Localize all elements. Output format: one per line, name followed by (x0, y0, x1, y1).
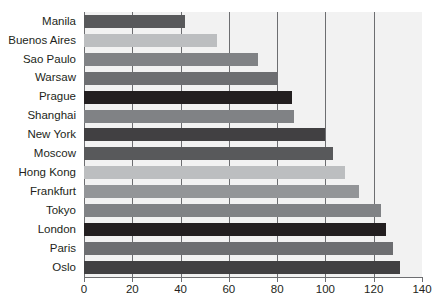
x-axis-tick (325, 277, 326, 282)
y-axis-label: Frankfurt (0, 182, 80, 201)
x-axis-tick (132, 277, 133, 282)
bar (84, 15, 185, 28)
bar-row (84, 50, 422, 69)
bar (84, 185, 359, 198)
x-axis-tick (422, 277, 423, 282)
bar-row (84, 220, 422, 239)
x-axis-tick (229, 277, 230, 282)
x-axis-tick (277, 277, 278, 282)
y-axis-label: Oslo (0, 258, 80, 277)
y-axis-label: Shanghai (0, 107, 80, 126)
y-axis-label: Paris (0, 239, 80, 258)
bar (84, 166, 345, 179)
y-axis-label: Warsaw (0, 69, 80, 88)
bar (84, 53, 258, 66)
bar-chart: ManilaBuenos AiresSao PauloWarsawPragueS… (0, 0, 436, 306)
bar-row (84, 144, 422, 163)
bar (84, 34, 217, 47)
y-axis-label: Hong Kong (0, 163, 80, 182)
x-axis-tick-label: 100 (316, 284, 335, 296)
x-axis-tick-label: 60 (222, 284, 235, 296)
bar (84, 128, 325, 141)
y-axis-label: Prague (0, 88, 80, 107)
bar-row (84, 126, 422, 145)
y-axis-category-labels: ManilaBuenos AiresSao PauloWarsawPragueS… (0, 12, 80, 277)
bar-row (84, 258, 422, 277)
y-axis-label: Moscow (0, 144, 80, 163)
bar-row (84, 12, 422, 31)
bar-row (84, 239, 422, 258)
y-axis-label: London (0, 220, 80, 239)
bar (84, 223, 386, 236)
x-axis-tick (374, 277, 375, 282)
x-axis-line (84, 277, 423, 278)
bar (84, 261, 400, 274)
bar (84, 72, 277, 85)
bar-row (84, 88, 422, 107)
y-axis-label: Tokyo (0, 201, 80, 220)
x-axis-tick-label: 120 (364, 284, 383, 296)
x-axis-tick (181, 277, 182, 282)
plot-area (84, 12, 422, 277)
bar-row (84, 163, 422, 182)
y-axis-label: New York (0, 126, 80, 145)
bar-series (84, 12, 422, 277)
bar-row (84, 31, 422, 50)
bar (84, 147, 333, 160)
bar-row (84, 107, 422, 126)
bar-row (84, 69, 422, 88)
x-axis-tick-label: 40 (174, 284, 187, 296)
bar (84, 204, 381, 217)
bar (84, 242, 393, 255)
x-axis-tick-label: 80 (271, 284, 284, 296)
bar (84, 110, 294, 123)
bar (84, 91, 292, 104)
y-axis-label: Manila (0, 12, 80, 31)
y-axis-label: Buenos Aires (0, 31, 80, 50)
bar-row (84, 182, 422, 201)
x-axis-tick-label: 0 (81, 284, 87, 296)
x-axis-tick-label: 20 (126, 284, 139, 296)
bar-row (84, 201, 422, 220)
x-axis-tick (84, 277, 85, 282)
x-axis-tick-label: 140 (412, 284, 431, 296)
y-axis-label: Sao Paulo (0, 50, 80, 69)
